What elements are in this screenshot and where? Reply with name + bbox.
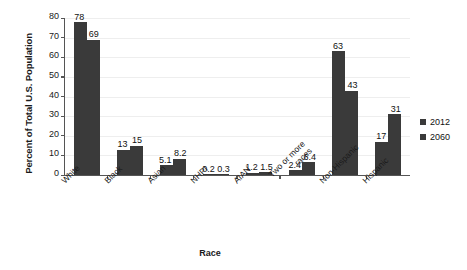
bar-value-label: 78 xyxy=(74,13,84,22)
bar-group: 5.18.2 xyxy=(151,18,194,175)
bar[interactable]: 31 xyxy=(388,114,401,175)
bar[interactable]: 78 xyxy=(74,22,87,175)
y-axis-tick-label: 30 xyxy=(49,109,59,119)
y-axis-title: Percent of Total U.S. Population xyxy=(23,14,34,194)
legend-item[interactable]: 2012 xyxy=(420,114,450,129)
y-axis-tick-label: 0 xyxy=(54,168,59,178)
y-axis-tick-label: 80 xyxy=(49,11,59,21)
bar[interactable]: 6.4 xyxy=(302,162,315,175)
bar-group: 1315 xyxy=(108,18,151,175)
bar-value-label: 15 xyxy=(132,136,142,145)
legend-label: 2012 xyxy=(430,117,450,127)
legend-swatch-icon xyxy=(420,134,426,140)
legend: 20122060 xyxy=(420,114,450,144)
bar-value-label: 17 xyxy=(376,132,386,141)
y-axis-tick-label: 50 xyxy=(49,70,59,80)
bar-value-label: 63 xyxy=(333,42,343,51)
bar-value-label: 69 xyxy=(89,30,99,39)
bar-value-label: 31 xyxy=(391,105,401,114)
legend-label: 2060 xyxy=(430,132,450,142)
x-axis-label-cell: Asian xyxy=(150,177,193,247)
bar-value-label: 8.2 xyxy=(174,149,187,158)
x-axis-category-labels: WhiteBlackAsianNHPIAIANTwo or more races… xyxy=(64,177,409,247)
legend-item[interactable]: 2060 xyxy=(420,129,450,144)
x-axis-label-cell: Two or more races xyxy=(280,177,323,247)
y-axis-tick-label: 70 xyxy=(49,31,59,41)
bar[interactable]: 15 xyxy=(130,146,143,175)
x-axis-label-cell: Hispanic xyxy=(366,177,409,247)
x-axis-label-cell: NHPI xyxy=(193,177,236,247)
bar-group: 0.20.3 xyxy=(194,18,237,175)
bar-group: 1.21.5 xyxy=(238,18,281,175)
x-axis-label-cell: White xyxy=(64,177,107,247)
bar[interactable]: 69 xyxy=(87,40,100,175)
bar[interactable]: 8.2 xyxy=(173,159,186,175)
x-axis-label-cell: Non-Hispanic xyxy=(323,177,366,247)
bar-value-label: 43 xyxy=(348,81,358,90)
y-axis-tick-label: 20 xyxy=(49,129,59,139)
y-axis-tick-label: 40 xyxy=(49,90,59,100)
bar-value-label: 13 xyxy=(117,140,127,149)
x-axis-title: Race xyxy=(0,248,420,258)
bar[interactable]: 0.3 xyxy=(216,174,229,175)
bar-chart: Percent of Total U.S. Population 0102030… xyxy=(0,0,467,270)
legend-swatch-icon xyxy=(420,119,426,125)
y-axis-tick-label: 10 xyxy=(49,148,59,158)
bar-value-label: 0.3 xyxy=(217,165,230,174)
bar-group: 7869 xyxy=(65,18,108,175)
bar-group: 1731 xyxy=(367,18,410,175)
x-axis-label-cell: Black xyxy=(107,177,150,247)
y-axis-tick-label: 60 xyxy=(49,50,59,60)
